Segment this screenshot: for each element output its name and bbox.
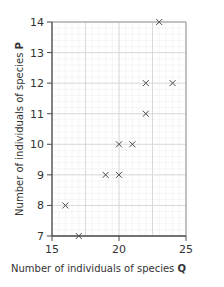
y-tick-label: 11	[30, 108, 44, 121]
tick-labels: 7891011121314152025	[30, 16, 193, 256]
x-tick-label: 20	[112, 243, 126, 256]
x-tick-label: 15	[45, 243, 59, 256]
x-axis-label: Number of individuals of species Q	[11, 263, 186, 274]
y-tick-label: 10	[30, 138, 44, 151]
y-tick-label: 8	[37, 199, 44, 212]
y-tick-label: 9	[37, 169, 44, 182]
y-tick-label: 13	[30, 47, 44, 60]
y-axis-label: Number of individuals of species P	[14, 42, 25, 216]
x-tick-label: 25	[179, 243, 193, 256]
y-tick-label: 12	[30, 77, 44, 90]
y-tick-label: 14	[30, 16, 44, 29]
scatter-chart: 7891011121314152025 Number of individual…	[0, 0, 224, 287]
y-tick-label: 7	[37, 230, 44, 243]
